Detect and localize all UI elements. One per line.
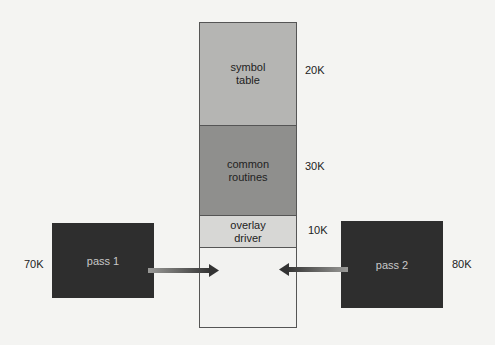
arrow-right-icon bbox=[148, 264, 219, 277]
arrows bbox=[0, 0, 495, 345]
arrow-left-icon bbox=[279, 263, 348, 276]
